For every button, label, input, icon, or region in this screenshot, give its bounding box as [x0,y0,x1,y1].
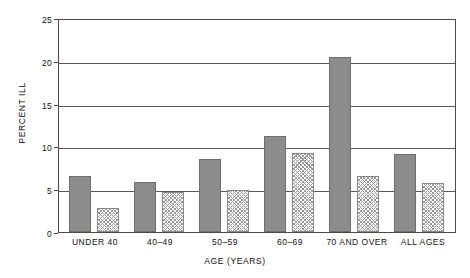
bar-hatched-under-40 [97,208,119,232]
y-tick-label-0: 0 [26,229,52,239]
bar-solid-70-and-over [329,57,351,233]
plot-area [58,19,456,233]
bar-solid-50-59 [199,159,221,232]
x-tick-label-under-40: UNDER 40 [72,237,118,247]
bar-hatched-40-49 [162,192,184,232]
bar-group-60-69 [262,20,320,232]
y-tick-label-15: 15 [26,101,52,111]
bar-solid-all-ages [394,154,416,232]
x-tick-label-all-ages: ALL AGES [401,237,445,247]
y-tick-label-5: 5 [26,186,52,196]
bar-hatched-50-59 [227,190,249,232]
x-tick-label-40-49: 40–49 [147,237,173,247]
y-tick-label-25: 25 [26,15,52,25]
x-axis-title: AGE (YEARS) [0,256,470,266]
bar-chart-figure: PERCENT ILL 0 5 10 15 20 25 [0,0,470,278]
y-tick-label-20: 20 [26,58,52,68]
bar-group-under-40 [67,20,125,232]
y-tick-mark-0 [54,233,58,234]
bar-solid-40-49 [134,182,156,232]
bar-group-all-ages [392,20,450,232]
bar-hatched-60-69 [292,153,314,232]
bar-group-40-49 [132,20,190,232]
bar-solid-under-40 [69,176,91,232]
x-tick-label-70-and-over: 70 AND OVER [326,237,387,247]
x-tick-label-60-69: 60–69 [277,237,303,247]
bar-solid-60-69 [264,136,286,232]
y-tick-label-10: 10 [26,143,52,153]
bar-hatched-all-ages [422,183,444,232]
bar-hatched-70-and-over [357,176,379,232]
bar-group-50-59 [197,20,255,232]
y-axis-title: PERCENT ILL [17,53,27,173]
bar-group-70-and-over [327,20,385,232]
x-tick-label-50-59: 50–59 [212,237,238,247]
